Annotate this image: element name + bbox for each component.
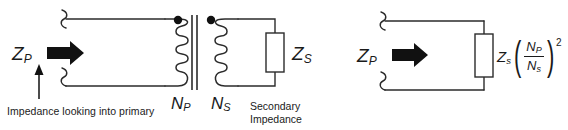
left-zp-subscript: P <box>24 52 32 66</box>
impedance-pointer-arrowhead-icon <box>35 64 44 75</box>
primary-polarity-dot-icon <box>174 16 182 24</box>
left-secondary-top-wire <box>238 19 275 33</box>
left-primary-impedance-label: ZP <box>12 44 32 65</box>
fraction-bar <box>524 56 543 57</box>
right-zp-subscript: P <box>369 54 377 68</box>
denominator-symbol: N <box>527 58 536 73</box>
formula-zs-subscript: s <box>506 55 511 66</box>
formula-exponent: 2 <box>556 37 562 48</box>
right-zp-symbol: Z <box>357 45 369 66</box>
left-bottom-break-squiggle <box>61 68 67 86</box>
left-zp-symbol: Z <box>12 43 24 64</box>
ns-subscript: S <box>223 101 230 113</box>
secondary-polarity-dot-icon <box>207 16 215 24</box>
formula-zs-symbol: Z <box>497 48 506 65</box>
zs-subscript: S <box>304 52 312 66</box>
secondary-caption-line-2: Impedance <box>250 113 302 126</box>
primary-impedance-caption: Impedance looking into primary <box>7 106 154 117</box>
secondary-caption-line-1: Secondary <box>250 100 302 113</box>
denominator-subscript: s <box>536 65 541 75</box>
reflected-impedance-box <box>475 34 493 77</box>
secondary-impedance-caption: Secondary Impedance <box>250 100 302 126</box>
primary-turns-label: NP <box>171 95 191 113</box>
secondary-winding-coil <box>215 19 238 86</box>
turns-ratio-fraction: NP Ns <box>524 39 543 75</box>
left-secondary-bottom-wire <box>238 72 275 86</box>
np-symbol: N <box>171 94 183 113</box>
left-primary-direction-arrow-icon <box>47 41 84 65</box>
right-primary-impedance-label: ZP <box>357 46 377 67</box>
fraction-numerator: NP <box>524 39 543 55</box>
secondary-impedance-label: ZS <box>292 44 312 65</box>
formula-close-paren: ) <box>547 41 554 72</box>
primary-winding-coil <box>165 19 188 86</box>
secondary-turns-label: NS <box>211 95 231 113</box>
figure-canvas: ZP ZS NP NS Impedance looking into prima… <box>0 0 568 130</box>
np-subscript: P <box>183 101 190 113</box>
zs-symbol: Z <box>292 43 304 64</box>
right-bottom-break-squiggle <box>380 72 386 90</box>
numerator-subscript: P <box>536 45 542 55</box>
formula-open-paren: ( <box>514 41 521 72</box>
numerator-symbol: N <box>526 39 535 54</box>
formula-zs: Zs <box>497 48 511 66</box>
secondary-impedance-box <box>266 33 284 72</box>
reflected-impedance-formula: Zs ( NP Ns ) 2 <box>497 39 562 75</box>
right-primary-direction-arrow-icon <box>392 43 428 67</box>
ns-symbol: N <box>211 94 223 113</box>
fraction-denominator: Ns <box>525 58 543 74</box>
